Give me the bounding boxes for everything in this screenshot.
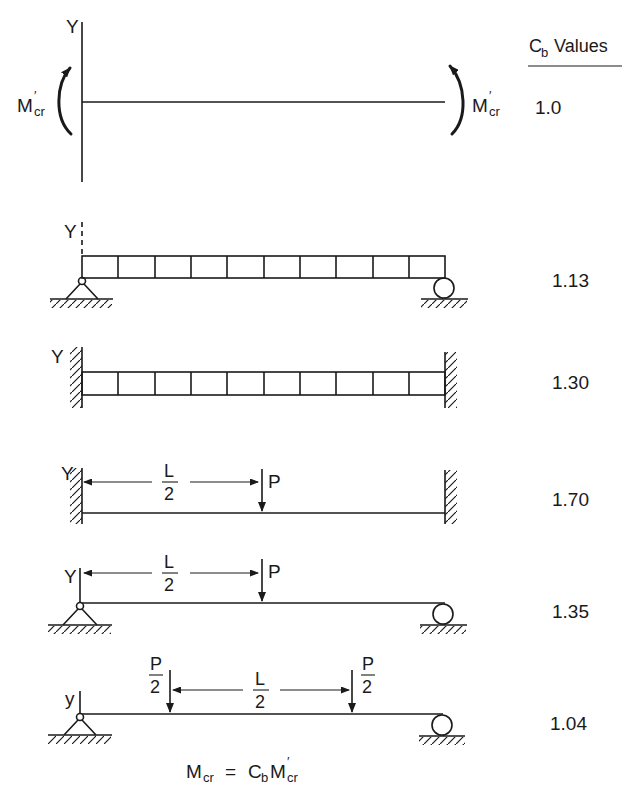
- roller-support-icon: [421, 278, 468, 308]
- fixed-support-right-icon: [445, 470, 457, 524]
- axis-label: y: [65, 688, 75, 709]
- case-fixed-fixed-uniform-load: Y 1.30: [51, 346, 589, 408]
- axis-label: Y: [64, 566, 77, 587]
- svg-text:2: 2: [164, 484, 174, 504]
- load-label: P: [268, 561, 281, 582]
- moment-label-left: M ′ cr: [17, 88, 46, 119]
- svg-text:M: M: [270, 761, 286, 782]
- cb-value: 1.0: [535, 97, 561, 118]
- axis-label: Y: [66, 16, 79, 37]
- case-simply-supported-point-load: Y L 2 P 1.35: [48, 552, 589, 634]
- svg-text:2: 2: [255, 692, 265, 712]
- svg-text:cr: cr: [287, 770, 299, 785]
- svg-text:2: 2: [164, 575, 174, 595]
- load-label-right: P 2: [361, 654, 375, 697]
- dimension-l-over-2: L 2: [84, 552, 258, 595]
- header-c-sub: b: [541, 45, 548, 60]
- case-simply-supported-uniform-load: Y 1.13: [50, 221, 589, 308]
- svg-text:M: M: [186, 761, 202, 782]
- cb-values-header: C b Values: [528, 36, 622, 66]
- svg-text:cr: cr: [489, 104, 501, 119]
- cb-value: 1.13: [552, 270, 589, 291]
- case-fixed-fixed-point-load: Y L 2 P 1.70: [61, 461, 589, 524]
- formula: M cr = C b M ′ cr: [186, 754, 299, 785]
- roller-support-icon: [419, 715, 465, 745]
- svg-text:C: C: [248, 761, 262, 782]
- load-divisions: [118, 256, 409, 278]
- cb-values-diagram: C b Values Y M ′ cr M ′ cr 1.0 Y: [0, 0, 622, 808]
- svg-text:2: 2: [362, 677, 372, 697]
- svg-text:b: b: [261, 770, 268, 785]
- cb-value: 1.70: [552, 489, 589, 510]
- svg-text:L: L: [164, 552, 174, 572]
- moment-arrow-left-icon: [59, 68, 71, 134]
- svg-text:M: M: [17, 95, 33, 116]
- pin-support-icon: [48, 714, 112, 745]
- svg-text:P: P: [150, 654, 162, 674]
- fixed-support-left-icon: [70, 468, 82, 524]
- dimension-l-over-2: L 2: [84, 461, 258, 504]
- load-divisions: [118, 372, 409, 395]
- load-label-left: P 2: [149, 654, 163, 697]
- pin-support-icon: [48, 603, 112, 635]
- svg-text:L: L: [255, 669, 265, 689]
- fixed-support-left-icon: [70, 347, 82, 408]
- svg-text:cr: cr: [203, 770, 215, 785]
- case-simply-supported-two-point-loads: y P 2 P 2: [48, 654, 587, 745]
- fixed-support-right-icon: [445, 352, 457, 408]
- svg-text:=: =: [225, 761, 236, 782]
- moment-arrow-right-icon: [450, 66, 463, 134]
- svg-text:2: 2: [150, 677, 160, 697]
- load-label: P: [268, 471, 281, 492]
- roller-support-icon: [420, 604, 467, 634]
- svg-text:L: L: [164, 461, 174, 481]
- cb-value: 1.30: [552, 372, 589, 393]
- moment-label-right: M ′ cr: [472, 88, 501, 119]
- axis-label: Y: [51, 346, 64, 367]
- svg-text:′: ′: [34, 88, 37, 103]
- cb-value: 1.35: [552, 601, 589, 622]
- svg-text:cr: cr: [34, 104, 46, 119]
- cb-value: 1.04: [550, 713, 587, 734]
- svg-text:′: ′: [489, 88, 492, 103]
- svg-text:′: ′: [287, 754, 290, 769]
- svg-text:P: P: [362, 654, 374, 674]
- dimension-l-over-2: L 2: [173, 669, 349, 712]
- case-uniform-moment: Y M ′ cr M ′ cr 1.0: [17, 16, 561, 182]
- axis-label: Y: [64, 221, 77, 242]
- pin-support-icon: [50, 278, 113, 309]
- svg-text:M: M: [472, 95, 488, 116]
- header-values: Values: [549, 36, 608, 56]
